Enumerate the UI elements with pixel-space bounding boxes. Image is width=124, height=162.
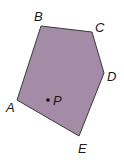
vertex-label-e: E <box>78 141 87 156</box>
vertex-label-a: A <box>5 100 15 115</box>
vertex-label-c: C <box>95 20 105 35</box>
vertex-label-b: B <box>34 9 43 24</box>
point-p-dot <box>46 98 50 102</box>
vertex-label-d: D <box>107 69 116 84</box>
point-label-p: P <box>53 93 62 108</box>
pentagon-diagram: B C D A E P <box>0 0 124 162</box>
pentagon-abcde <box>17 26 104 136</box>
